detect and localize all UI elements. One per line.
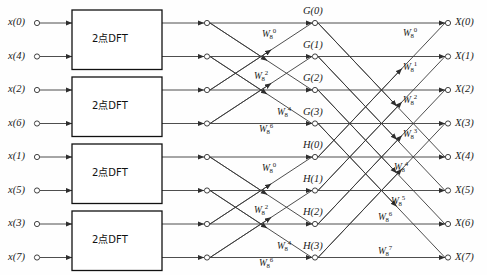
stage1-node-3	[204, 121, 209, 126]
output-node-X(7)	[445, 255, 450, 260]
output-label-X(4): X(4)	[455, 151, 474, 162]
input-label-x(6): x(6)	[8, 118, 25, 129]
dft-block-label-3: 2点DFT	[92, 235, 128, 245]
stage2-twiddle-H-2-5: W82	[254, 206, 269, 216]
input-label-x(3): x(3)	[8, 218, 25, 229]
intermediate-node-G(0)	[312, 20, 317, 25]
output-label-X(3): X(3)	[455, 118, 474, 129]
stage1-node-7	[204, 255, 209, 260]
stage2-twiddle-H-4-6: W84	[277, 242, 292, 252]
intermediate-node-H(3)	[312, 255, 317, 260]
intermediate-node-G(1)	[312, 54, 317, 59]
fft-flow-graph-figure: x(0)x(4)x(2)x(6)x(1)x(5)x(3)x(7)2点DFT2点D…	[0, 0, 487, 275]
intermediate-label-H(0): H(0)	[303, 140, 323, 151]
stage3-twiddle-3-3: W83	[403, 130, 418, 140]
stage1-node-6	[204, 221, 209, 226]
output-label-X(6): X(6)	[455, 218, 474, 229]
output-node-X(4)	[445, 154, 450, 159]
output-label-X(5): X(5)	[455, 185, 474, 196]
input-label-x(5): x(5)	[8, 185, 25, 196]
stage2-twiddle-G-2-1: W82	[254, 72, 269, 82]
output-label-X(2): X(2)	[455, 84, 474, 95]
output-node-X(2)	[445, 87, 450, 92]
stage3-twiddle-0-0: W80	[403, 29, 418, 39]
output-node-X(6)	[445, 221, 450, 226]
input-label-x(2): x(2)	[8, 84, 25, 95]
input-label-x(0): x(0)	[8, 17, 25, 28]
input-node-x(2)	[34, 87, 39, 92]
output-label-X(7): X(7)	[455, 252, 474, 263]
intermediate-node-H(1)	[312, 188, 317, 193]
dft-block-outlines	[72, 10, 162, 271]
intermediate-label-H(1): H(1)	[303, 174, 323, 185]
output-node-X(3)	[445, 121, 450, 126]
stage3-twiddle-2-2: W82	[403, 96, 418, 106]
intermediate-label-G(1): G(1)	[303, 40, 323, 51]
output-node-X(0)	[445, 20, 450, 25]
intermediate-label-H(3): H(3)	[303, 241, 323, 252]
stage1-node-2	[204, 87, 209, 92]
intermediate-label-H(2): H(2)	[303, 207, 323, 218]
stage3-twiddle-1-1: W81	[403, 63, 418, 73]
output-label-X(0): X(0)	[455, 17, 474, 28]
intermediate-node-H(0)	[312, 154, 317, 159]
stage3-twiddle-5-5: W85	[391, 197, 406, 207]
stage1-node-0	[204, 20, 209, 25]
intermediate-label-G(0): G(0)	[303, 6, 323, 17]
input-node-x(3)	[34, 221, 39, 226]
input-node-x(1)	[34, 154, 39, 159]
input-node-x(7)	[34, 255, 39, 260]
input-label-x(7): x(7)	[8, 252, 25, 263]
output-node-X(5)	[445, 188, 450, 193]
input-label-x(4): x(4)	[8, 51, 25, 62]
dft-block-label-2: 2点DFT	[92, 168, 128, 178]
output-label-X(1): X(1)	[455, 51, 474, 62]
input-label-x(1): x(1)	[8, 151, 25, 162]
intermediate-label-G(3): G(3)	[303, 107, 323, 118]
stage1-node-1	[204, 54, 209, 59]
stage3-twiddle-4-4: W84	[394, 163, 409, 173]
stage2-twiddle-G-4-2: W84	[277, 108, 292, 118]
intermediate-node-G(2)	[312, 87, 317, 92]
stage2-twiddle-H-0-4: W80	[262, 164, 277, 174]
stage3-twiddle-7-7: W87	[378, 247, 393, 257]
stage3-twiddle-6-6: W86	[378, 213, 393, 223]
input-node-x(0)	[34, 20, 39, 25]
dft-block-label-1: 2点DFT	[92, 101, 128, 111]
intermediate-label-G(2): G(2)	[303, 73, 323, 84]
output-node-X(1)	[445, 54, 450, 59]
stage2-twiddle-H-6-7: W86	[259, 259, 274, 269]
intermediate-node-H(2)	[312, 221, 317, 226]
dft-block-label-0: 2点DFT	[92, 34, 128, 44]
stage1-node-4	[204, 154, 209, 159]
stage2-twiddle-G-6-3: W86	[259, 125, 274, 135]
intermediate-node-G(3)	[312, 121, 317, 126]
input-node-x(6)	[34, 121, 39, 126]
input-node-x(4)	[34, 54, 39, 59]
stage1-node-5	[204, 188, 209, 193]
stage2-twiddle-G-0-0: W80	[262, 30, 277, 40]
input-node-x(5)	[34, 188, 39, 193]
